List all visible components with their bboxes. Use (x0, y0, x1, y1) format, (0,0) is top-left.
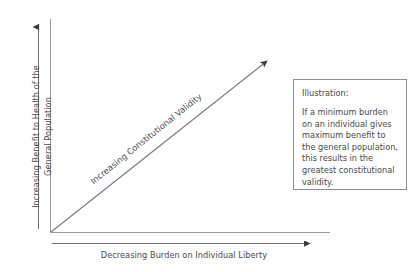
illustration-line-4: the general population, (302, 142, 399, 154)
illustration-line-2: on an individual gives (302, 119, 399, 131)
illustration-line-6: greatest constitutional (302, 165, 399, 177)
y-axis-label-line2: General Population (42, 37, 54, 237)
diagram-canvas: Increasing Benefit to Health of the Gene… (0, 0, 416, 272)
illustration-line-3: maximum benefit to (302, 130, 399, 142)
illustration-title: Illustration: (302, 88, 399, 99)
y-axis-label-line1: Increasing Benefit to Health of the (31, 37, 43, 237)
illustration-box: Illustration: If a minimum burden on an … (293, 79, 407, 190)
y-axis-label: Increasing Benefit to Health of the Gene… (31, 37, 54, 237)
diagonal-trend-arrow (51, 61, 267, 232)
x-axis-label: Decreasing Burden on Individual Liberty (50, 250, 318, 262)
illustration-body: If a minimum burden on an individual giv… (302, 107, 399, 188)
illustration-line-7: validity. (302, 177, 399, 189)
illustration-line-1: If a minimum burden (302, 107, 399, 119)
illustration-line-5: this results in the (302, 153, 399, 165)
